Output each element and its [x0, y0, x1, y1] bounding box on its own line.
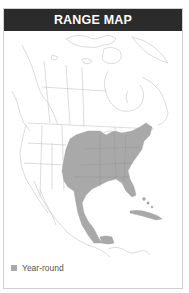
legend-label-year-round: Year-round — [22, 263, 64, 273]
map-legend: Year-round — [11, 263, 64, 273]
year-round-swatch — [11, 265, 17, 271]
range-map — [4, 31, 182, 261]
year-round-range — [62, 123, 162, 244]
range-map-card: RANGE MAP — [3, 8, 183, 289]
north-america-map — [4, 31, 182, 261]
map-title: RANGE MAP — [4, 9, 182, 31]
